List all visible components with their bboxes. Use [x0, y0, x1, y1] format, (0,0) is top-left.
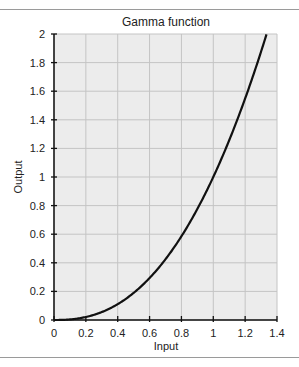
y-tick-label: 1.6 [30, 85, 45, 97]
y-tick-label: 0.6 [30, 228, 45, 240]
y-tick-label: 0.4 [30, 257, 45, 269]
y-tick-label: 0.2 [30, 285, 45, 297]
x-tick-label: 0.4 [110, 327, 125, 339]
y-tick-label: 1.2 [30, 142, 45, 154]
y-tick-label: 0.8 [30, 200, 45, 212]
x-axis-label: Input [154, 340, 178, 352]
x-tick-label: 0.2 [78, 327, 93, 339]
x-tick-label: 1.2 [237, 327, 252, 339]
gamma-chart: 00.20.40.60.811.21.41.61.8200.20.40.60.8… [0, 0, 299, 367]
y-tick-label: 0 [39, 314, 45, 326]
chart-title: Gamma function [122, 15, 210, 29]
x-tick-label: 0.6 [142, 327, 157, 339]
y-axis-label: Output [12, 160, 24, 193]
x-tick-label: 1 [210, 327, 216, 339]
y-tick-label: 2 [39, 28, 45, 40]
y-tick-label: 1.4 [30, 114, 45, 126]
y-tick-label: 1 [39, 171, 45, 183]
x-tick-label: 1.4 [269, 327, 284, 339]
y-tick-label: 1.8 [30, 57, 45, 69]
x-tick-label: 0.8 [174, 327, 189, 339]
x-tick-label: 0 [51, 327, 57, 339]
